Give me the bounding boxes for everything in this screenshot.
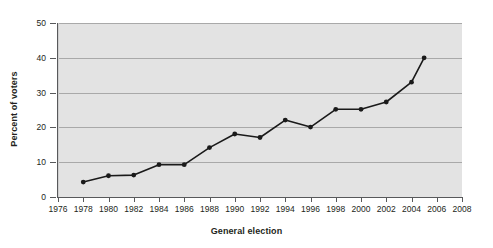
- data-point-2004: [409, 80, 414, 85]
- data-point-2000: [359, 107, 364, 112]
- data-point-1980: [106, 173, 111, 178]
- data-point-1990: [232, 132, 237, 137]
- data-point-2005: [422, 55, 427, 60]
- data-point-1994: [283, 118, 288, 123]
- data-point-1984: [157, 162, 162, 167]
- data-series-layer: [0, 0, 493, 248]
- data-point-1988: [207, 145, 212, 150]
- data-point-1986: [182, 162, 187, 167]
- data-point-1982: [131, 173, 136, 178]
- chart-figure: Percent of voters General election 01020…: [0, 0, 493, 248]
- data-point-1978: [81, 180, 86, 185]
- series-line: [83, 58, 424, 182]
- series-markers: [81, 55, 427, 184]
- data-point-1998: [333, 107, 338, 112]
- data-point-1992: [258, 135, 263, 140]
- data-point-2002: [384, 100, 389, 105]
- data-point-1996: [308, 125, 313, 130]
